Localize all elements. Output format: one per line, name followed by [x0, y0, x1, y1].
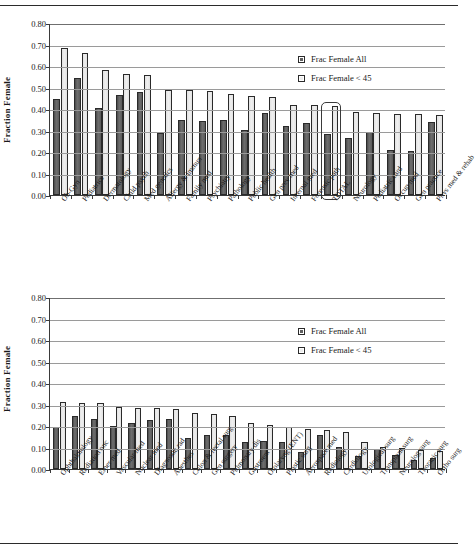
chart-panel-top: Fraction Female 0.800.700.600.500.400.30… — [0, 10, 458, 280]
bar-frac-female-under-45 — [436, 115, 443, 195]
y-axis-tick-label: 0.10 — [31, 170, 46, 179]
y-axis-tick — [46, 298, 50, 299]
y-axis-tick — [46, 132, 50, 133]
legend-swatch-all-icon — [298, 56, 305, 63]
y-axis-tick-label: 0.20 — [31, 149, 46, 158]
y-axis-tick-label: 0.80 — [31, 20, 46, 29]
y-axis-tick-label: 0.30 — [31, 401, 46, 410]
y-axis-title-bottom: Fraction Female — [2, 314, 20, 444]
y-axis-tick — [46, 24, 50, 25]
gridline — [50, 46, 445, 47]
y-axis-tick — [46, 175, 50, 176]
legend-swatch-u45-icon — [298, 347, 305, 354]
plot-area-top — [49, 24, 445, 196]
y-axis-tick — [46, 341, 50, 342]
y-axis-tick — [46, 153, 50, 154]
y-axis-tick-label: 0.70 — [31, 41, 46, 50]
y-axis-tick — [46, 406, 50, 407]
legend-bottom: Frac Female All Frac Female < 45 — [298, 326, 371, 364]
legend-top: Frac Female All Frac Female < 45 — [298, 54, 371, 92]
gridline — [50, 406, 445, 407]
y-axis-tick-label: 0.00 — [31, 466, 46, 475]
y-axis-tick — [46, 320, 50, 321]
bar-frac-female-under-45 — [415, 114, 422, 195]
y-axis-tick-label: 0.50 — [31, 84, 46, 93]
y-axis-tick-label: 0.60 — [31, 63, 46, 72]
bar-frac-female-under-45 — [61, 48, 68, 195]
gridline — [50, 67, 445, 68]
gridline — [50, 384, 445, 385]
y-axis-tick-label: 0.50 — [31, 358, 46, 367]
legend-label-u45: Frac Female < 45 — [311, 73, 371, 83]
gridline — [50, 363, 445, 364]
y-axis-tick — [46, 427, 50, 428]
gridline — [50, 427, 445, 428]
y-axis-tick — [46, 110, 50, 111]
legend-item-u45-top: Frac Female < 45 — [298, 73, 371, 83]
legend-item-u45-bottom: Frac Female < 45 — [298, 345, 371, 355]
y-axis-tick-label: 0.80 — [31, 294, 46, 303]
y-axis-tick — [46, 67, 50, 68]
bar-frac-female-under-45 — [97, 403, 103, 469]
gridline — [50, 110, 445, 111]
y-axis-tick-label: 0.60 — [31, 337, 46, 346]
gridline — [50, 341, 445, 342]
x-axis-tick-labels-bottom: OphthalmologyRadiation oncEmer medVascul… — [49, 472, 459, 542]
y-axis-tick — [46, 449, 50, 450]
legend-label-u45: Frac Female < 45 — [311, 345, 371, 355]
gridline — [50, 89, 445, 90]
y-axis-tick-label: 0.40 — [31, 380, 46, 389]
gridline — [50, 153, 445, 154]
legend-swatch-all-icon — [298, 328, 305, 335]
chart-panel-bottom: Fraction Female 0.800.700.600.500.400.30… — [0, 288, 458, 540]
footer-rule — [0, 543, 458, 544]
bar-frac-female-all — [53, 99, 60, 195]
legend-label-all: Frac Female All — [311, 326, 366, 336]
y-axis-tick-label: 0.20 — [31, 423, 46, 432]
bar-frac-female-under-45 — [116, 407, 122, 469]
x-axis-tick-labels-top: Ob-GynPediatricsDermatologyChild psychMe… — [49, 198, 459, 278]
legend-label-all: Frac Female All — [311, 54, 366, 64]
y-axis-tick — [46, 46, 50, 47]
bar-frac-female-under-45 — [60, 402, 66, 469]
y-axis-tick-label: 0.30 — [31, 127, 46, 136]
y-axis-tick-label: 0.40 — [31, 106, 46, 115]
y-axis-title-top: Fraction Female — [2, 50, 20, 170]
gridline — [50, 132, 445, 133]
y-axis-tick-label: 0.00 — [31, 192, 46, 201]
gridline — [50, 24, 445, 25]
bar-frac-female-under-45 — [154, 408, 160, 469]
y-axis-tick-label: 0.70 — [31, 315, 46, 324]
header-rule — [0, 5, 458, 6]
legend-swatch-u45-icon — [298, 75, 305, 82]
bar-frac-female-under-45 — [394, 114, 401, 195]
y-axis-tick-label: 0.10 — [31, 444, 46, 453]
gridline — [50, 320, 445, 321]
legend-item-all-top: Frac Female All — [298, 54, 371, 64]
gridline — [50, 298, 445, 299]
bar-frac-female-under-45 — [79, 403, 85, 469]
y-axis-tick — [46, 384, 50, 385]
legend-item-all-bottom: Frac Female All — [298, 326, 371, 336]
y-axis-tick — [46, 89, 50, 90]
y-axis-tick — [46, 363, 50, 364]
